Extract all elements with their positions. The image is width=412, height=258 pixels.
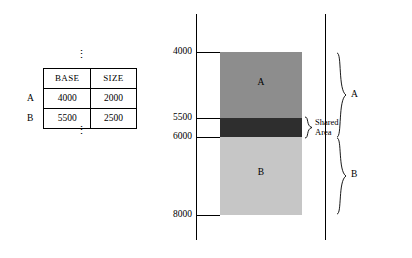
address-label-6000: 6000 [132,131,192,141]
memory-table: BASE SIZE A 4000 2000 B 5500 2500 [27,68,137,129]
address-label-5500: 5500 [132,112,192,122]
segment-a-brace-label: A [351,89,358,99]
table-header-row: BASE SIZE [27,69,137,89]
cell-base-a: 4000 [44,89,90,109]
memory-boundary-left [196,14,197,240]
table-ellipsis-bottom: ⋮ [76,128,86,132]
tick-6000 [196,137,220,138]
address-label-4000: 4000 [132,46,192,56]
ellipsis-bottom-glyph: ⋮ [76,128,86,132]
table-ellipsis-top: ⋮ [76,52,86,56]
cell-size-b: 2500 [90,109,136,129]
memory-block-shared [220,118,302,137]
tick-8000 [196,215,220,216]
diagram-canvas: ⋮ BASE SIZE A 4000 2000 B 5500 2500 ⋮ [0,0,412,258]
tick-4000 [196,52,220,53]
table-header-size: SIZE [90,69,136,89]
segment-a-brace [336,52,347,138]
tick-5500 [196,118,220,119]
memory-block-a: A [220,52,302,118]
row-label-a: A [27,89,44,109]
memory-block-a-label: A [220,77,302,87]
table-row: A 4000 2000 [27,89,137,109]
memory-block-b-label: B [220,167,302,177]
table-header-base: BASE [44,69,90,89]
segment-b-brace-label: B [351,169,357,179]
memory-block-b: B [220,137,302,215]
memory-layout-diagram: 4000 5500 6000 8000 A B Shared Area A [196,14,326,240]
cell-size-a: 2000 [90,89,136,109]
segment-b-brace [336,137,347,215]
address-label-8000: 8000 [132,209,192,219]
ellipsis-top-glyph: ⋮ [76,52,86,56]
table-corner-cell [27,69,44,89]
row-label-b: B [27,109,44,129]
shared-area-brace [304,116,313,139]
